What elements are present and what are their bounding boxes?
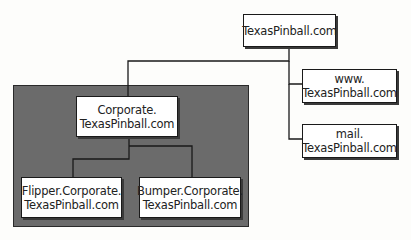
node-mail-label-1: mail.	[336, 127, 363, 141]
node-root: TexasPinball.com	[243, 14, 336, 47]
diagram-canvas: TexasPinball.com www. TexasPinball.com m…	[0, 0, 411, 240]
node-www-label-2: TexasPinball.com	[302, 86, 397, 100]
node-www: www. TexasPinball.com	[302, 69, 397, 103]
node-bumper-label-2: TexasPinball.com	[143, 198, 238, 212]
node-flipper: Flipper.Corporate. TexasPinball.com	[21, 177, 122, 218]
node-www-label-1: www.	[334, 72, 364, 86]
node-corporate-label-2: TexasPinball.com	[80, 117, 175, 131]
node-root-label: TexasPinball.com	[242, 24, 337, 38]
node-corporate-label-1: Corporate.	[97, 103, 156, 117]
edge-root-www	[289, 61, 302, 84]
edge-corporate-bumper	[129, 146, 192, 177]
node-flipper-label-2: TexasPinball.com	[24, 198, 119, 212]
node-bumper-label-1: Bumper.Corporate.	[137, 184, 243, 198]
edge-corporate-flipper	[73, 136, 129, 177]
node-mail-label-2: TexasPinball.com	[302, 141, 397, 155]
node-corporate: Corporate. TexasPinball.com	[76, 96, 178, 137]
node-mail: mail. TexasPinball.com	[302, 124, 397, 158]
node-bumper: Bumper.Corporate. TexasPinball.com	[139, 177, 241, 218]
node-flipper-label-1: Flipper.Corporate.	[22, 184, 122, 198]
edge-root-corporate	[128, 46, 289, 96]
edge-root-mail	[289, 84, 302, 139]
